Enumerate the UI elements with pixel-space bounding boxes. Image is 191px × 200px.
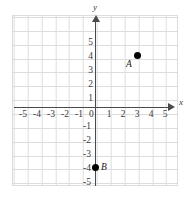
x-tick-label-neg5: -5 bbox=[16, 110, 30, 120]
x-tick-label-4: 4 bbox=[144, 110, 158, 120]
y-tick-label-neg2: -2 bbox=[77, 136, 91, 146]
x-tick-label-1: 1 bbox=[102, 110, 116, 120]
y-tick-label-neg4: -4 bbox=[77, 164, 91, 174]
x-axis-label: x bbox=[179, 98, 183, 107]
x-tick-label-neg1: -1 bbox=[72, 110, 86, 120]
x-tick-label-2: 2 bbox=[116, 110, 130, 120]
origin-label: 0 bbox=[89, 110, 99, 120]
x-tick-label-neg2: -2 bbox=[58, 110, 72, 120]
y-tick-label-2: 2 bbox=[79, 80, 93, 90]
y-axis-line bbox=[95, 20, 96, 186]
x-tick-label-5: 5 bbox=[158, 110, 172, 120]
x-tick-label-neg4: -4 bbox=[30, 110, 44, 120]
x-tick-label-neg3: -3 bbox=[44, 110, 58, 120]
y-tick-label-neg3: -3 bbox=[77, 150, 91, 160]
plotted-point-b bbox=[92, 164, 99, 171]
coordinate-plane-figure: x y -5 -4 -3 -2 -1 0 1 2 3 4 5 5 4 3 2 1… bbox=[0, 0, 191, 200]
y-tick-label-1: 1 bbox=[79, 94, 93, 104]
y-axis-arrow-icon bbox=[92, 15, 100, 22]
plotted-point-a bbox=[134, 52, 141, 59]
y-axis-label: y bbox=[93, 3, 97, 12]
y-tick-label-3: 3 bbox=[79, 66, 93, 76]
y-tick-label-neg5: -5 bbox=[77, 178, 91, 188]
plotted-point-a-label: A bbox=[126, 60, 132, 70]
y-tick-label-4: 4 bbox=[79, 52, 93, 62]
y-tick-label-5: 5 bbox=[79, 38, 93, 48]
plotted-point-b-label: B bbox=[101, 163, 107, 173]
x-tick-label-3: 3 bbox=[130, 110, 144, 120]
x-axis-line bbox=[14, 107, 170, 108]
y-tick-label-neg1: -1 bbox=[77, 122, 91, 132]
